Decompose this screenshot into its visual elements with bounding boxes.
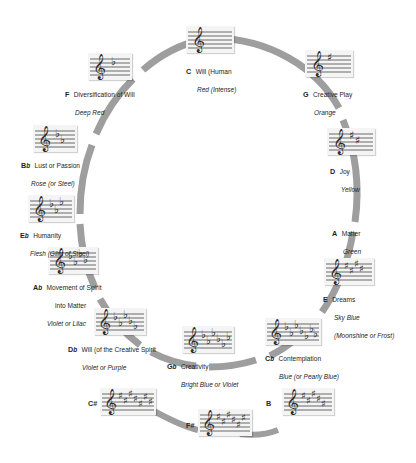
key-quality-Gb: Creativity — [181, 363, 208, 370]
svg-text:𝄞: 𝄞 — [269, 319, 282, 345]
key-label-Ab: Ab Movement of Spirit into Matter Violet… — [33, 276, 102, 330]
key-node-Bb[interactable]: 𝄞 ♭ ♭ — [33, 125, 77, 152]
key-accidental-Gb: b — [173, 363, 177, 370]
key-note-G: G — [303, 90, 309, 99]
key-color-G: Orange — [314, 109, 336, 116]
svg-text:♭: ♭ — [111, 55, 116, 68]
staff-notation-G: 𝄞 ♯ — [305, 50, 353, 77]
svg-text:𝄞: 𝄞 — [202, 410, 215, 436]
bottom-note-Csharp: C# — [88, 399, 97, 408]
key-accidental-Bb: b — [26, 162, 30, 169]
key-color-C: Red (Intense) — [197, 86, 236, 93]
key-color-A: Green — [343, 248, 361, 255]
staff-E: 𝄞 ♯ ♯ ♯ ♯ — [324, 258, 374, 285]
key-node-D[interactable]: 𝄞 ♯ ♯ — [327, 128, 375, 155]
svg-text:♭: ♭ — [133, 319, 138, 332]
key-accidental-Eb: b — [25, 232, 29, 239]
key-quality-Eb: Humanity — [33, 232, 61, 239]
key-color-Eb: Flesh (Glint of Steel) — [30, 250, 89, 257]
svg-text:𝄞: 𝄞 — [311, 51, 324, 77]
key-node-E[interactable]: 𝄞 ♯ ♯ ♯ ♯ — [324, 258, 374, 285]
key-note-C: C — [186, 67, 191, 76]
key-quality-E: Dreams — [332, 296, 355, 303]
staff-Fsharp: 𝄞 ♯ ♯ ♯ ♯ ♯ ♯ — [198, 409, 252, 436]
svg-text:♯: ♯ — [355, 134, 360, 147]
key-quality-F: Diversification of Will — [74, 91, 135, 98]
staff-G: 𝄞 ♯ — [305, 50, 353, 77]
key-accidental-Ab: b — [38, 284, 42, 291]
key-color-Gb: Bright Blue or Violet — [181, 381, 238, 388]
key-label-Bb: Bb Lust or Passion Rose (or Steel) — [21, 154, 80, 190]
key-color-D: Yellow — [341, 186, 360, 193]
key-label-Cb: Cb Contemplation Blue (or Pearly Blue) — [265, 347, 339, 383]
key-quality-D: Joy — [340, 168, 350, 175]
key-color-Cb: Blue (or Pearly Blue) — [279, 373, 339, 380]
key-note-A: A — [332, 229, 337, 238]
key-quality-Ab: Movement of Spirit — [47, 284, 102, 291]
staff-Eb: 𝄞 ♭ ♭ ♭ — [28, 195, 74, 222]
key-label-C: C Will (Human Red (Intense) — [186, 60, 236, 96]
key-node-Fsharp[interactable]: 𝄞 ♯ ♯ ♯ ♯ ♯ ♯ — [198, 409, 252, 436]
key-quality-Cb: Contemplation — [279, 355, 322, 362]
staff-D: 𝄞 ♯ ♯ — [327, 128, 375, 155]
key-note-D: D — [330, 167, 335, 176]
arc-eb-to-bb — [80, 145, 92, 214]
staff-notation-Bb: 𝄞 ♭ ♭ — [33, 125, 77, 152]
svg-text:♯: ♯ — [321, 398, 326, 409]
svg-text:𝄞: 𝄞 — [329, 259, 342, 285]
key-label-F: F Diversification of Will Deep Red — [65, 83, 135, 119]
key-note-F: F — [65, 90, 69, 99]
key-accidental-Db: b — [73, 346, 77, 353]
svg-text:♯: ♯ — [359, 263, 364, 274]
staff-F: 𝄞 ♭ — [88, 53, 132, 80]
key-accidental-Cb: b — [270, 355, 274, 362]
svg-text:𝄞: 𝄞 — [93, 54, 106, 80]
staff-notation-Csharp: 𝄞 ♯ ♯ ♯ ♯ ♯ ♯ ♯ — [100, 388, 156, 415]
svg-text:𝄞: 𝄞 — [33, 196, 46, 222]
key-color-Ab: Violet or Lilac — [47, 320, 86, 327]
staff-notation-Gb: 𝄞 ♭ ♭ ♭ ♭ ♭ ♭ — [182, 326, 234, 353]
key-note-E: E — [323, 295, 328, 304]
key-node-F[interactable]: 𝄞 ♭ — [88, 53, 132, 80]
staff-notation-Eb: 𝄞 ♭ ♭ ♭ — [28, 195, 74, 222]
key-quality-C: Will (Human — [196, 68, 232, 75]
svg-text:♭: ♭ — [60, 133, 65, 146]
key-node-Cb[interactable]: 𝄞 ♭ ♭ ♭ ♭ ♭ ♭ ♭ — [265, 318, 321, 345]
key-quality-Bb: Lust or Passion — [35, 162, 80, 169]
svg-text:♯: ♯ — [349, 129, 354, 142]
key-label-E: E Dreams Sky Blue (Moonshine or Frost) — [323, 288, 394, 342]
bottom-note-B: B — [266, 399, 271, 408]
staff-C: 𝄞 — [186, 26, 234, 53]
staff-notation-Db: 𝄞 ♭ ♭ ♭ ♭ ♭ — [94, 308, 146, 335]
key-color2-E: (Moonshine or Frost) — [334, 332, 394, 339]
key-color-F: Deep Red — [75, 109, 104, 116]
key-node-Csharp[interactable]: 𝄞 ♯ ♯ ♯ ♯ ♯ ♯ ♯ — [100, 388, 156, 415]
key-quality-A: Matter — [342, 230, 361, 237]
staff-B: 𝄞 ♯ ♯ ♯ ♯ ♯ — [282, 388, 334, 415]
staff-notation-F: 𝄞 ♭ — [88, 53, 132, 80]
key-color-E: Sky Blue — [334, 314, 360, 321]
key-quality-Db: Will (of the Creative Spirit — [82, 346, 156, 353]
staff-Gb: 𝄞 ♭ ♭ ♭ ♭ ♭ ♭ — [182, 326, 234, 353]
key-label-Gb: Gb Creativity Bright Blue or Violet — [167, 355, 238, 391]
staff-notation-Cb: 𝄞 ♭ ♭ ♭ ♭ ♭ ♭ ♭ — [265, 318, 321, 345]
staff-Bb: 𝄞 ♭ ♭ — [33, 125, 77, 152]
svg-text:𝄞: 𝄞 — [333, 129, 346, 155]
key-node-B[interactable]: 𝄞 ♯ ♯ ♯ ♯ ♯ — [282, 388, 334, 415]
key-node-Gb[interactable]: 𝄞 ♭ ♭ ♭ ♭ ♭ ♭ — [182, 326, 234, 353]
svg-text:♯: ♯ — [327, 51, 332, 64]
staff-notation-B: 𝄞 ♯ ♯ ♯ ♯ ♯ — [282, 388, 334, 415]
key-quality2-Ab: into Matter — [55, 302, 86, 309]
svg-text:♭: ♭ — [59, 195, 64, 208]
key-node-Db[interactable]: 𝄞 ♭ ♭ ♭ ♭ ♭ — [94, 308, 146, 335]
key-color-Bb: Rose (or Steel) — [31, 180, 75, 187]
key-node-G[interactable]: 𝄞 ♯ — [305, 50, 353, 77]
circle-of-fifths-diagram: 𝄞 C Will (Human Red (Intense) 𝄞 ♯ G Crea… — [0, 0, 416, 463]
svg-text:♯: ♯ — [148, 396, 153, 407]
key-node-Eb[interactable]: 𝄞 ♭ ♭ ♭ — [28, 195, 74, 222]
key-label-G: G Creative Play Orange — [303, 83, 352, 119]
key-node-C[interactable]: 𝄞 — [186, 26, 234, 53]
key-label-Eb: Eb Humanity Flesh (Glint of Steel) — [20, 224, 89, 260]
svg-text:♭: ♭ — [226, 330, 231, 343]
staff-notation-Fsharp: 𝄞 ♯ ♯ ♯ ♯ ♯ ♯ — [198, 409, 252, 436]
